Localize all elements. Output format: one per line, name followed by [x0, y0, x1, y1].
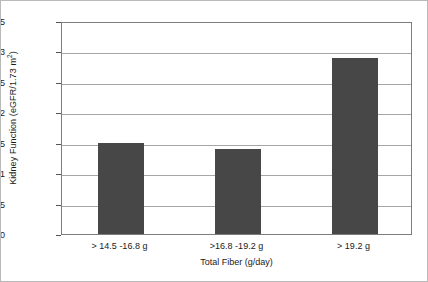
y-tick-mark — [56, 235, 61, 236]
x-tick-label: >16.8 -19.2 g — [210, 241, 263, 251]
y-tick-label: 0.5 — [0, 200, 5, 210]
x-tick-label: > 14.5 -16.8 g — [92, 241, 148, 251]
y-axis-title-text: Kidney Function (eGFR/1.73 m2) — [8, 51, 18, 185]
bar — [332, 58, 378, 234]
plot-area — [61, 22, 412, 235]
bar — [98, 143, 144, 234]
y-tick-label: 1.5 — [0, 139, 5, 149]
y-tick-label: 3 — [0, 47, 5, 57]
y-tick-label: 3.5 — [0, 17, 5, 27]
y-tick-label: 2 — [0, 108, 5, 118]
chart-figure: Kidney Function (eGFR/1.73 m2) 00.511.52… — [0, 0, 428, 282]
bar — [215, 149, 261, 234]
y-tick-label: 0 — [0, 230, 5, 240]
y-tick-label: 1 — [0, 169, 5, 179]
x-tick-label: > 19.2 g — [337, 241, 370, 251]
x-axis-title: Total Fiber (g/day) — [61, 257, 412, 267]
y-tick-label: 2.5 — [0, 78, 5, 88]
gridline — [62, 53, 411, 54]
